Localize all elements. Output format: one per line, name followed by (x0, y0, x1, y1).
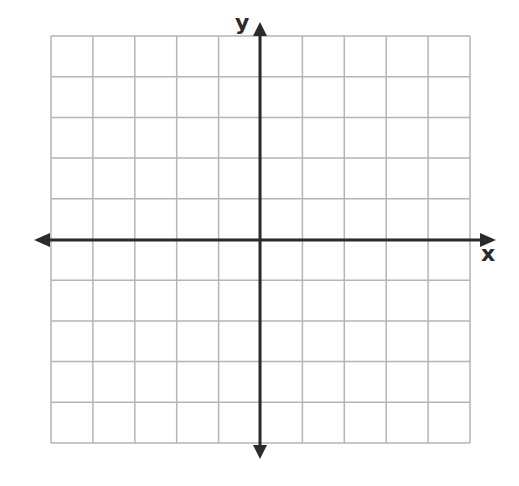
coordinate-grid (0, 0, 519, 486)
coordinate-plane: y x (0, 0, 519, 486)
axes (34, 22, 496, 459)
y-axis-label: y (235, 10, 249, 35)
y-axis-up-arrow-icon (253, 22, 267, 36)
x-axis-left-arrow-icon (34, 233, 50, 247)
x-axis-label: x (481, 241, 495, 266)
y-axis-down-arrow-icon (253, 445, 267, 459)
